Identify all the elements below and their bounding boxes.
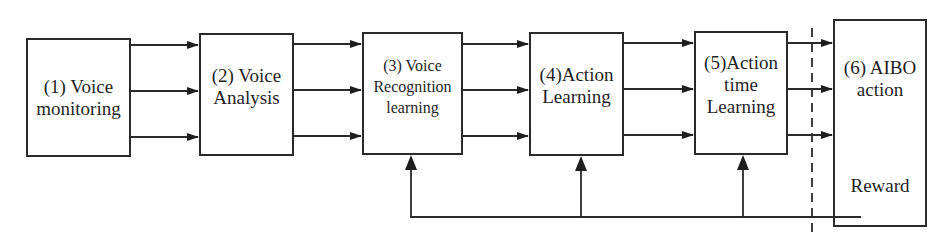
- block-2-line2: Analysis: [199, 87, 294, 109]
- reward-label: Reward: [833, 175, 927, 197]
- block-4-label: (4)Action Learning: [529, 64, 624, 108]
- block-5-line2: time: [694, 74, 788, 96]
- block-1-label: (1) Voice monitoring: [26, 76, 131, 120]
- block-4-line2: Learning: [529, 86, 624, 108]
- block-3-line3: learning: [362, 97, 463, 118]
- block-4-line1: (4)Action: [529, 64, 624, 86]
- block-6-label: (6) AIBO action: [833, 57, 927, 101]
- feedback-line: [411, 170, 861, 217]
- block-3-line1: (3) Voice: [362, 55, 463, 76]
- block-5-line1: (5)Action: [694, 52, 788, 74]
- block-5-label: (5)Action time Learning: [694, 52, 788, 118]
- block-3-line2: Recognition: [362, 76, 463, 97]
- block-6-line2: action: [833, 79, 927, 101]
- block-1-line2: monitoring: [26, 98, 131, 120]
- block-1-line1: (1) Voice: [26, 76, 131, 98]
- block-6-line1: (6) AIBO: [833, 57, 927, 79]
- connector-lines: [0, 0, 948, 245]
- block-2-line1: (2) Voice: [199, 65, 294, 87]
- block-2-label: (2) Voice Analysis: [199, 65, 294, 109]
- block-5-line3: Learning: [694, 96, 788, 118]
- block-3-label: (3) Voice Recognition learning: [362, 55, 463, 118]
